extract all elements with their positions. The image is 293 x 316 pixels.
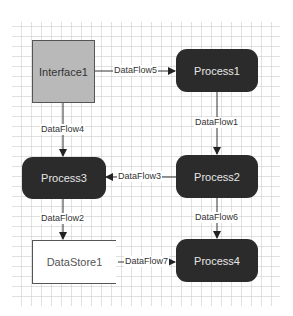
flow-label-dataflow6[interactable]: DataFlow6 [194, 212, 239, 223]
flow-label-dataflow2[interactable]: DataFlow2 [40, 213, 85, 224]
flow-label-dataflow4[interactable]: DataFlow4 [40, 124, 85, 135]
node-label: DataStore1 [47, 256, 103, 268]
node-process3[interactable]: Process3 [22, 157, 106, 199]
node-label: Process3 [41, 172, 87, 184]
node-process1[interactable]: Process1 [176, 49, 258, 92]
node-label: Process2 [194, 171, 240, 183]
node-datastore1[interactable]: DataStore1 [32, 240, 116, 284]
flow-label-dataflow1[interactable]: DataFlow1 [194, 117, 239, 128]
node-label: Interface1 [39, 66, 88, 78]
node-label: Process4 [194, 255, 240, 267]
node-interface1[interactable]: Interface1 [32, 40, 95, 103]
node-process2[interactable]: Process2 [176, 155, 258, 198]
flow-label-dataflow7[interactable]: DataFlow7 [124, 256, 169, 267]
flow-label-dataflow5[interactable]: DataFlow5 [113, 65, 158, 76]
node-label: Process1 [194, 65, 240, 77]
flow-label-dataflow3[interactable]: DataFlow3 [117, 171, 162, 182]
node-process4[interactable]: Process4 [176, 239, 258, 282]
